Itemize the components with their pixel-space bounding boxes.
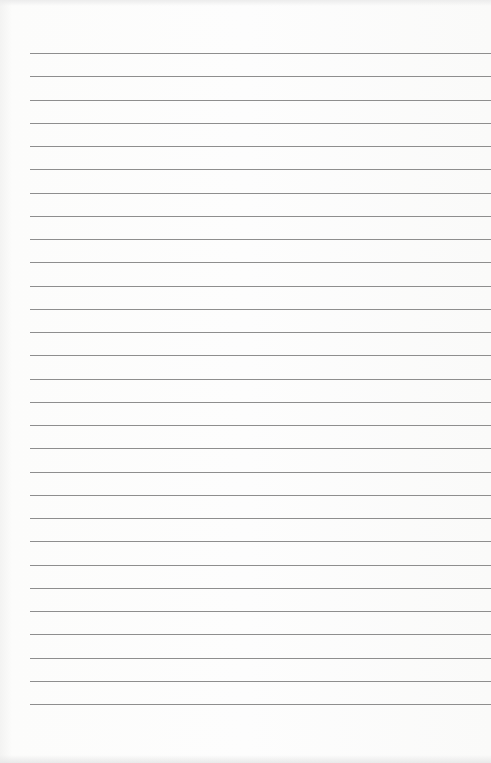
ruled-line	[30, 309, 491, 310]
ruled-line	[30, 541, 491, 542]
ruled-line	[30, 611, 491, 612]
ruled-line	[30, 425, 491, 426]
ruled-line	[30, 53, 491, 54]
ruled-line	[30, 239, 491, 240]
ruled-line	[30, 216, 491, 217]
ruled-line	[30, 100, 491, 101]
top-edge-shadow	[0, 0, 491, 6]
ruled-line	[30, 565, 491, 566]
ruled-line	[30, 518, 491, 519]
ruled-line	[30, 681, 491, 682]
ruled-line	[30, 123, 491, 124]
ruled-line	[30, 76, 491, 77]
ruled-line	[30, 448, 491, 449]
ruled-line	[30, 193, 491, 194]
bottom-edge-shadow	[0, 755, 491, 763]
ruled-line	[30, 658, 491, 659]
ruled-line	[30, 402, 491, 403]
ruled-line	[30, 332, 491, 333]
ruled-line	[30, 262, 491, 263]
ruled-line	[30, 495, 491, 496]
ruled-line	[30, 355, 491, 356]
ruled-line	[30, 169, 491, 170]
ruled-line	[30, 704, 491, 705]
ruled-line	[30, 588, 491, 589]
ruled-line	[30, 146, 491, 147]
ruled-line	[30, 472, 491, 473]
lined-paper-sheet	[0, 0, 491, 763]
ruled-line	[30, 379, 491, 380]
ruled-line	[30, 634, 491, 635]
ruled-line	[30, 286, 491, 287]
